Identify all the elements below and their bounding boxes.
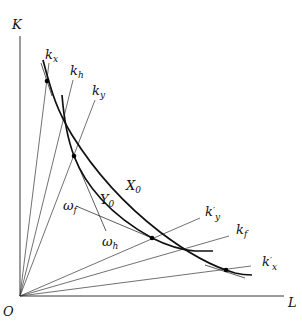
isoquant-x0 [43, 60, 252, 275]
label-ky-prime: k′y [205, 204, 221, 222]
origin-label: O [3, 304, 14, 319]
ray-kh [20, 80, 73, 296]
ray-ky [20, 100, 95, 296]
ray-kf [20, 236, 229, 296]
label-kx-prime: k′x [262, 254, 277, 272]
point-kyprime-y0 [150, 236, 155, 241]
label-ky: ky [92, 83, 106, 100]
point-ky-y0 [72, 154, 77, 159]
ray-kx [20, 63, 49, 296]
label-kf: kf [236, 222, 249, 239]
isoquant-diagram: K L O kx kh ky k′y kf k′x X0 Y0 ωf ωh [0, 0, 302, 326]
label-omega-h: ωh [102, 234, 118, 251]
label-kx: kx [45, 47, 58, 64]
point-kx-x0 [45, 79, 50, 84]
label-x0: X0 [125, 178, 141, 195]
isoquant-y0 [62, 95, 213, 251]
l-axis-label: L [287, 295, 297, 310]
label-kh: kh [70, 63, 84, 80]
label-y0: Y0 [100, 192, 115, 209]
k-axis-label: K [11, 17, 23, 32]
point-kxprime-x0 [224, 268, 229, 273]
label-omega-f: ωf [63, 198, 79, 215]
